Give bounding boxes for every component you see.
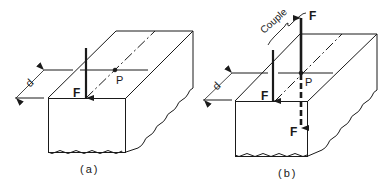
force-label-up-b: F [309, 9, 316, 23]
point-label-a: P [116, 74, 123, 86]
distance-label-a: d [23, 76, 36, 89]
block-a-right-break [126, 31, 193, 152]
block-b-top-face [235, 34, 377, 101]
figure-a [15, 31, 193, 154]
force-label-down-b: F [261, 89, 268, 103]
point-p-a [113, 68, 117, 72]
block-b-right-break [308, 34, 377, 156]
point-p-b [299, 71, 303, 75]
distance-label-b: d [210, 79, 223, 92]
force-label-a: F [73, 86, 80, 100]
caption-b: (b) [278, 167, 297, 179]
centerline-a [86, 31, 155, 98]
block-a-top-face [48, 31, 193, 98]
point-label-b: P [305, 76, 312, 88]
force-label-dashed-b: F [290, 125, 297, 139]
centerline-b [275, 34, 342, 101]
caption-a: (a) [80, 163, 99, 175]
force-couple-diagram: d F P (a) d Couple F F P F (b) [0, 0, 387, 186]
couple-label: Couple [258, 6, 289, 36]
block-a-front-face [49, 99, 126, 153]
